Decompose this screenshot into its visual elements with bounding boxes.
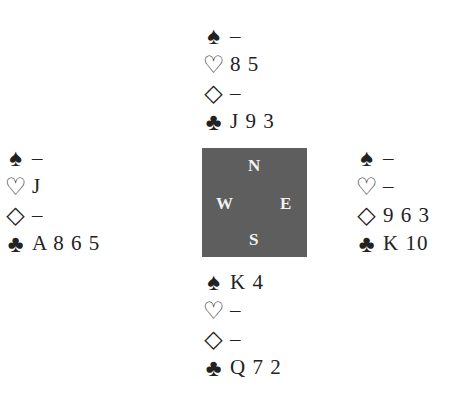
spade-icon: ♠ [202,24,226,48]
west-hearts: ♡J [4,173,100,202]
north-spades: ♠– [202,22,275,51]
diamond-icon: ◇ [355,203,379,227]
north-clubs: ♣J 9 3 [202,108,275,137]
club-icon: ♣ [202,110,226,134]
spade-icon: ♠ [4,146,28,170]
heart-icon: ♡ [4,175,28,199]
east-hearts: ♡– [355,173,430,202]
compass-box: N W E S [202,148,307,257]
diamond-icon: ◇ [202,327,226,351]
heart-icon: ♡ [202,53,226,77]
east-diamonds: ◇9 6 3 [355,201,430,230]
west-diamonds: ◇– [4,201,100,230]
spade-icon: ♠ [202,270,226,294]
east-hand: ♠– ♡– ◇9 6 3 ♣K 10 [355,144,430,258]
club-icon: ♣ [4,232,28,256]
heart-icon: ♡ [355,175,379,199]
north-hearts: ♡8 5 [202,51,275,80]
north-diamonds: ◇– [202,79,275,108]
east-clubs: ♣K 10 [355,230,430,259]
compass-west: W [216,194,233,214]
north-hand: ♠– ♡8 5 ◇– ♣J 9 3 [202,22,275,136]
east-spades: ♠– [355,144,430,173]
south-hand: ♠K 4 ♡– ◇– ♣Q 7 2 [202,268,282,382]
south-hearts: ♡– [202,297,282,326]
diamond-icon: ◇ [4,203,28,227]
heart-icon: ♡ [202,299,226,323]
south-diamonds: ◇– [202,325,282,354]
compass-south: S [249,230,258,250]
diamond-icon: ◇ [202,81,226,105]
south-clubs: ♣Q 7 2 [202,354,282,383]
south-spades: ♠K 4 [202,268,282,297]
west-clubs: ♣A 8 6 5 [4,230,100,259]
west-hand: ♠– ♡J ◇– ♣A 8 6 5 [4,144,100,258]
compass-east: E [280,194,291,214]
compass-north: N [248,156,260,176]
west-spades: ♠– [4,144,100,173]
club-icon: ♣ [355,232,379,256]
spade-icon: ♠ [355,146,379,170]
club-icon: ♣ [202,356,226,380]
